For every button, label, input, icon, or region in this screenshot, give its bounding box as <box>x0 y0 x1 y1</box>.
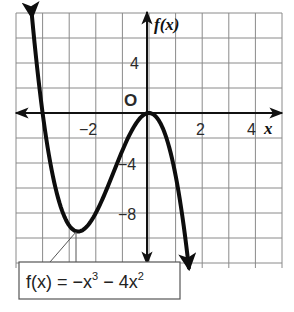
grid-lines <box>16 13 282 268</box>
function-graph: f(x) x O −2 2 4 4 −4 −8 f(x) = −x3 − 4x2 <box>0 0 294 312</box>
callout-pointer <box>50 232 76 262</box>
function-curve <box>32 16 189 267</box>
y-axis-label: f(x) <box>154 15 179 34</box>
x-axis-label: x <box>263 119 273 138</box>
tick-label-x-2: 2 <box>196 121 205 138</box>
tick-label-y-4: 4 <box>130 55 139 72</box>
tick-label-y-neg4: −4 <box>118 156 136 173</box>
equation-callout: f(x) = −x3 − 4x2 <box>19 232 180 299</box>
equation-label: f(x) = −x3 − 4x2 <box>26 270 144 292</box>
tick-label-y-neg8: −8 <box>118 206 136 223</box>
tick-label-x-4: 4 <box>247 121 256 138</box>
origin-label: O <box>124 91 137 110</box>
tick-label-x-neg2: −2 <box>79 121 97 138</box>
